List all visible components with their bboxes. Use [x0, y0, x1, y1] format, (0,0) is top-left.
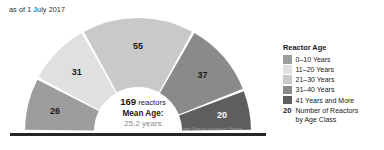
- legend-swatch-icon: [283, 86, 292, 95]
- mean-age-label: Mean Age:: [88, 109, 198, 119]
- reactor-age-figure: as of 1 July 2017 2631553720 169 reactor…: [0, 0, 384, 150]
- segment-value-label: 55: [133, 41, 143, 51]
- legend-item-label: 41 Years and More: [296, 97, 355, 104]
- legend-item: 11–20 Years: [283, 65, 383, 75]
- legend-swatch-icon: [283, 75, 292, 84]
- legend-item: 31–40 Years: [283, 85, 383, 95]
- chart-credit-watermark: IAEA Power Reactor Information System: [170, 127, 242, 131]
- legend-note-text: Number of Reactors by Age Class: [296, 107, 359, 124]
- legend: Reactor Age 0–10 Years11–20 Years21–30 Y…: [283, 43, 383, 124]
- legend-rows: 0–10 Years11–20 Years21–30 Years31–40 Ye…: [283, 55, 383, 105]
- total-reactors-value: 169: [120, 96, 136, 107]
- legend-swatch-icon: [283, 96, 292, 105]
- total-reactors-unit: reactors: [138, 98, 165, 107]
- legend-item: 21–30 Years: [283, 75, 383, 85]
- as-of-date: as of 1 July 2017: [9, 5, 65, 14]
- legend-item-label: 21–30 Years: [296, 76, 335, 83]
- legend-note-text-line1: Number of Reactors: [296, 107, 359, 115]
- legend-item-label: 31–40 Years: [296, 86, 335, 93]
- legend-item-label: 11–20 Years: [296, 66, 334, 73]
- legend-item: 0–10 Years: [283, 55, 383, 65]
- legend-note-text-line2: by Age Class: [296, 116, 359, 124]
- legend-note: 20 Number of Reactors by Age Class: [283, 107, 383, 124]
- segment-value-label: 37: [197, 70, 207, 80]
- segment-value-label: 31: [72, 67, 82, 77]
- total-reactors-line: 169 reactors: [88, 96, 198, 108]
- chart-baseline-rule: [10, 133, 266, 136]
- donut-center-text: 169 reactors Mean Age: 25.2 years: [88, 96, 198, 129]
- legend-title: Reactor Age: [283, 43, 383, 52]
- legend-swatch-icon: [283, 65, 292, 74]
- segment-value-label: 26: [50, 106, 60, 116]
- legend-swatch-icon: [283, 55, 292, 64]
- legend-item-label: 0–10 Years: [296, 56, 331, 63]
- segment-value-label: 20: [217, 110, 227, 120]
- legend-item: 41 Years and More: [283, 95, 383, 105]
- legend-note-key: 20: [283, 107, 292, 116]
